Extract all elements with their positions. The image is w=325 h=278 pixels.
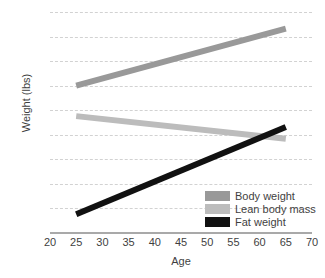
x-axis-title: Age — [50, 255, 312, 267]
legend: Body weightLean body massFat weight — [205, 190, 316, 228]
line-chart: Weight (lbs) 0255075100125150175200225 2… — [0, 0, 325, 278]
legend-label: Fat weight — [235, 216, 286, 228]
legend-item: Fat weight — [205, 216, 316, 228]
y-axis-title: Weight (lbs) — [20, 33, 32, 173]
legend-label: Lean body mass — [235, 203, 316, 215]
series-line — [76, 29, 286, 86]
x-axis-line — [50, 232, 312, 234]
x-tick-label: 70 — [297, 236, 325, 248]
legend-label: Body weight — [235, 190, 295, 202]
legend-swatch — [205, 217, 230, 227]
series-line — [76, 116, 286, 139]
legend-swatch — [205, 204, 230, 214]
legend-swatch — [205, 191, 230, 201]
legend-item: Body weight — [205, 190, 316, 202]
legend-item: Lean body mass — [205, 203, 316, 215]
